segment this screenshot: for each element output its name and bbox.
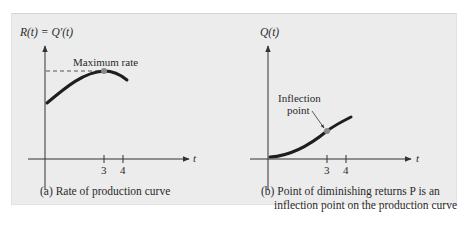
chart-b-tick-label-3: 3 [324, 164, 330, 176]
chart-a-y-label: R(t) = Q′(t) [20, 26, 73, 38]
chart-b-caption-line2: inflection point on the production curve [261, 198, 457, 212]
chart-b-y-label: Q(t) [260, 26, 279, 38]
chart-a-x-label: t [193, 152, 196, 164]
chart-a-annotation: Maximum rate [73, 56, 138, 68]
chart-b-x-label: t [416, 152, 419, 164]
chart-b-annotation-arrow [312, 111, 324, 128]
chart-a-caption: (a) Rate of production curve [40, 184, 170, 198]
chart-b-annotation-line1: Inflection [278, 92, 321, 104]
chart-a-tick-label-4: 4 [120, 164, 126, 176]
chart-a-tick-label-3: 3 [101, 164, 107, 176]
chart-a-max-point [101, 68, 107, 74]
chart-b-tick-label-4: 4 [343, 164, 349, 176]
chart-b [250, 46, 411, 190]
chart-b-caption-line1: (b) Point of diminishing returns P is an [261, 184, 440, 198]
chart-a-curve [47, 71, 127, 103]
chart-b-inflection-point [324, 128, 330, 134]
chart-b-curve [270, 117, 351, 157]
chart-b-annotation-line2: point [287, 104, 310, 116]
